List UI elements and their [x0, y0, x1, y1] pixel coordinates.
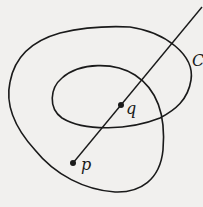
diagram-canvas: C q p	[0, 0, 203, 207]
point-q	[118, 102, 124, 108]
curve-c	[9, 27, 192, 192]
label-c: C	[192, 51, 203, 70]
label-q: q	[126, 99, 136, 118]
curve-diagram: C q p	[0, 0, 203, 207]
label-p: p	[81, 155, 91, 174]
ray-pq	[73, 7, 202, 163]
point-p	[70, 160, 76, 166]
